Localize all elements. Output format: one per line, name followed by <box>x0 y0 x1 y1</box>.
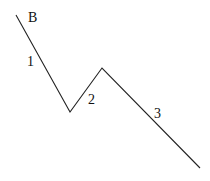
wave-diagram: B 1 2 3 <box>0 0 210 181</box>
label-wave-2: 2 <box>88 92 95 107</box>
label-b: B <box>28 10 37 25</box>
wave-line <box>16 15 200 168</box>
label-wave-3: 3 <box>154 106 161 121</box>
label-wave-1: 1 <box>27 54 34 69</box>
